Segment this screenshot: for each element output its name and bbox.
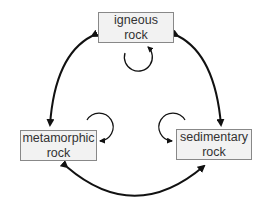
node-label-line1: metamorphic: [22, 131, 94, 146]
node-metamorphic-rock: metamorphicrock: [20, 130, 97, 161]
node-label-line2: rock: [114, 28, 158, 43]
self-loop-igneous: [124, 47, 152, 71]
node-label-line2: rock: [22, 146, 94, 161]
arrow-metamorphic-sedimentary: [67, 166, 204, 196]
rock-cycle-diagram: igneousrock metamorphicrock sedimentaryr…: [0, 0, 263, 214]
node-label-line1: igneous: [114, 13, 158, 28]
node-igneous-rock: igneousrock: [98, 12, 174, 43]
node-label-line2: rock: [180, 145, 248, 160]
node-sedimentary-rock: sedimentaryrock: [176, 129, 252, 160]
node-label-line1: sedimentary: [180, 130, 248, 145]
arrow-igneous-metamorphic: [50, 36, 92, 125]
arrow-igneous-sedimentary: [178, 36, 221, 125]
